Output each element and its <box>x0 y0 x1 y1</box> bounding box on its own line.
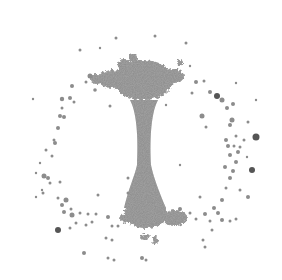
speck <box>107 257 110 260</box>
speck <box>42 174 47 179</box>
speck <box>220 218 224 222</box>
speck <box>203 80 206 83</box>
speck <box>223 165 227 169</box>
speck <box>95 213 98 216</box>
speck <box>57 197 60 200</box>
speck <box>60 97 64 101</box>
speck <box>179 164 181 166</box>
speck <box>79 49 82 52</box>
speck <box>49 182 52 185</box>
speck <box>42 192 45 195</box>
bottom-cluster-lobe <box>141 234 149 240</box>
speck <box>236 150 240 154</box>
speck <box>246 156 248 158</box>
speck <box>85 81 88 84</box>
bottom-cluster-lobe <box>120 213 136 223</box>
speck <box>246 195 250 199</box>
speck <box>229 220 232 223</box>
speck <box>117 225 120 228</box>
particle-pattern-image <box>0 0 282 280</box>
speck <box>189 212 192 215</box>
bottom-cluster-lobe <box>163 210 187 226</box>
speck <box>205 126 208 129</box>
speck <box>220 98 225 103</box>
speck <box>200 114 205 119</box>
speck <box>82 251 86 255</box>
speck <box>203 212 207 216</box>
speck <box>32 98 34 100</box>
top-cluster-lobe <box>164 69 184 83</box>
speck <box>45 149 48 152</box>
speck <box>231 102 235 106</box>
speck <box>209 220 212 223</box>
speck <box>140 256 144 260</box>
speck <box>106 215 110 219</box>
speck <box>249 167 255 173</box>
speck <box>235 218 238 221</box>
speck <box>228 153 232 157</box>
top-cluster-lobe <box>129 54 137 62</box>
speck <box>73 101 76 104</box>
speck <box>51 155 54 158</box>
speck <box>253 134 260 141</box>
speck <box>69 227 72 230</box>
speck <box>225 187 228 190</box>
speck <box>228 123 232 127</box>
speck <box>111 239 114 242</box>
speck <box>211 229 214 232</box>
speck <box>61 107 64 110</box>
speck <box>235 82 237 84</box>
speck <box>46 176 50 180</box>
speck <box>68 96 72 100</box>
top-cluster-lobe <box>118 59 130 69</box>
speck <box>70 208 73 211</box>
bottom-cluster-lobe <box>152 236 158 244</box>
speck <box>55 227 61 233</box>
speck <box>99 47 101 49</box>
speck <box>216 211 220 215</box>
speck <box>199 196 202 199</box>
speck <box>239 189 242 192</box>
speck <box>212 206 216 210</box>
speck <box>239 146 242 149</box>
speck <box>111 225 114 228</box>
speck <box>127 192 130 195</box>
speck <box>60 203 64 207</box>
speck <box>243 139 246 142</box>
speck <box>97 194 100 197</box>
speck <box>105 237 108 240</box>
speck <box>235 135 238 138</box>
speck <box>231 169 235 173</box>
speck <box>35 172 37 174</box>
speck <box>228 176 232 180</box>
speck <box>91 221 94 224</box>
top-cluster-lobe <box>177 60 183 66</box>
speck <box>127 177 130 180</box>
speck <box>225 106 229 110</box>
speck <box>255 99 257 101</box>
speck <box>145 259 148 262</box>
speck <box>75 222 78 225</box>
speck <box>214 93 220 99</box>
speck <box>41 189 43 191</box>
speck <box>39 162 41 164</box>
speck <box>234 160 238 164</box>
speck <box>93 88 97 92</box>
speck <box>230 118 235 123</box>
speck <box>56 126 60 130</box>
speck <box>53 141 57 145</box>
speck <box>226 144 230 148</box>
speck <box>115 37 118 40</box>
speck <box>189 65 191 67</box>
speck <box>58 114 62 118</box>
speck <box>220 198 224 202</box>
speck <box>194 80 198 84</box>
speck <box>233 145 236 148</box>
speck <box>70 84 74 88</box>
speck <box>62 210 66 214</box>
speck <box>208 90 212 94</box>
speck <box>191 92 194 95</box>
speck <box>35 196 37 198</box>
speck <box>59 181 62 184</box>
speck <box>165 104 167 106</box>
